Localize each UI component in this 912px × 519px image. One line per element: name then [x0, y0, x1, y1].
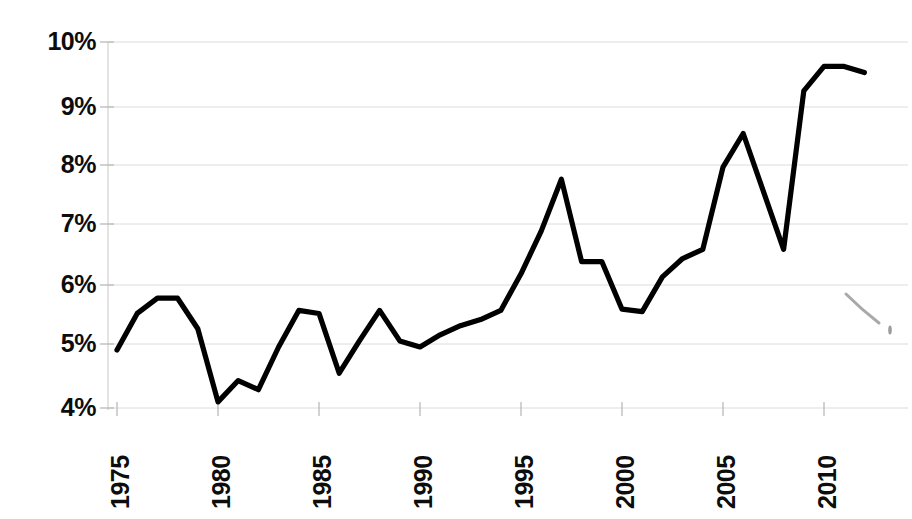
data-series-line — [117, 66, 864, 402]
y-axis-label-8: 8% — [0, 152, 96, 177]
x-axis-label-1995: 1995 — [512, 455, 537, 509]
chart-plot-area — [0, 0, 912, 519]
y-tick-marks — [100, 42, 114, 408]
y-axis-label-4: 4% — [0, 395, 96, 420]
chart-container: 10% 9% 8% 7% 6% 5% 4% 1975 1980 1985 199… — [0, 0, 912, 519]
x-axis-label-2010: 2010 — [815, 455, 840, 509]
y-axis-label-9: 9% — [0, 94, 96, 119]
y-axis-label-5: 5% — [0, 331, 96, 356]
y-axis-label-7: 7% — [0, 211, 96, 236]
scan-artifact-stroke — [846, 294, 879, 323]
y-axis-label-6: 6% — [0, 272, 96, 297]
x-tick-marks — [117, 402, 824, 416]
scan-artifact-speck — [888, 326, 892, 335]
x-axis-label-1985: 1985 — [310, 455, 335, 509]
y-axis-label-10: 10% — [0, 29, 96, 54]
x-axis-label-2000: 2000 — [613, 455, 638, 509]
x-axis-label-2005: 2005 — [714, 455, 739, 509]
x-axis-label-1975: 1975 — [108, 455, 133, 509]
x-axis-label-1980: 1980 — [209, 455, 234, 509]
x-axis-label-1990: 1990 — [411, 455, 436, 509]
